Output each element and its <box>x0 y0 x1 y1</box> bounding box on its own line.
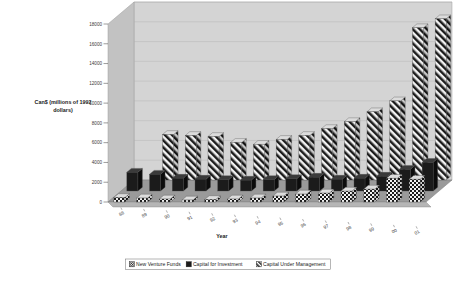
bar-face <box>231 142 242 180</box>
legend-label: Capital Under Management <box>263 261 326 267</box>
bar-face <box>137 198 148 202</box>
bar-face <box>159 199 170 202</box>
bar-face <box>208 136 219 180</box>
bar <box>322 125 338 180</box>
bar <box>195 175 211 191</box>
bar-side <box>310 132 315 180</box>
bar <box>344 118 360 180</box>
x-axis-title: Year <box>216 233 228 239</box>
bar <box>172 174 188 191</box>
bar-face <box>344 122 355 180</box>
bar-face <box>309 177 320 191</box>
legend-label: New Venture Funds <box>136 261 181 267</box>
bar-side <box>355 118 360 180</box>
bar-side <box>420 175 425 202</box>
bar <box>253 141 268 180</box>
bar-face <box>322 129 333 180</box>
bar <box>309 173 325 191</box>
bar-face <box>253 144 264 180</box>
bar-face <box>390 101 401 180</box>
chart-container: 0200040006000800010000120001400016000180… <box>0 0 456 288</box>
bar <box>127 168 143 191</box>
bar <box>386 174 402 202</box>
bar-face <box>182 200 193 202</box>
bar-face <box>195 179 206 191</box>
bar-side <box>333 125 338 180</box>
legend-swatch <box>256 262 261 267</box>
bar-side <box>174 131 179 180</box>
bar <box>208 133 224 180</box>
bar <box>240 176 256 191</box>
bar-face <box>409 179 420 202</box>
bar-face <box>386 178 397 202</box>
chart-legend: New Venture FundsCapital for InvestmentC… <box>125 259 330 270</box>
bar <box>286 175 302 191</box>
bar-face <box>276 139 287 180</box>
bar-face <box>127 172 138 191</box>
bar-face <box>263 180 274 191</box>
y-axis-title-line2: dollars) <box>53 107 73 113</box>
bar-face <box>299 136 310 181</box>
bar <box>341 187 357 202</box>
bar <box>367 108 383 180</box>
bar-face <box>435 19 446 180</box>
bar <box>263 176 279 191</box>
y-tick-label: 2000 <box>92 180 103 185</box>
y-tick-label: 8000 <box>92 121 103 126</box>
y-tick-label: 0 <box>99 200 102 205</box>
bar-side <box>423 24 428 180</box>
bar-side <box>196 132 201 180</box>
bar-side <box>433 159 438 191</box>
bar-face <box>150 174 161 191</box>
bar-face <box>318 193 329 202</box>
legend-swatch <box>129 262 134 267</box>
y-tick-label: 16000 <box>89 42 102 47</box>
bar-side <box>242 139 247 180</box>
floor-front-edge <box>108 202 431 207</box>
bar-side <box>287 136 292 180</box>
y-tick-label: 4000 <box>92 160 103 165</box>
bar <box>412 24 428 180</box>
bar-face <box>286 179 297 191</box>
bar <box>150 170 166 191</box>
bar-side <box>264 141 269 180</box>
bar-face <box>250 198 261 202</box>
bar <box>409 175 425 202</box>
bar-face <box>114 198 125 202</box>
y-tick-label: 12000 <box>89 81 102 86</box>
bar-side <box>378 108 383 180</box>
bar <box>318 189 334 202</box>
bar <box>185 132 201 180</box>
legend-swatch <box>186 262 191 267</box>
bar-face <box>185 136 196 181</box>
bar <box>364 185 380 202</box>
bar-face <box>172 178 183 191</box>
bar-face <box>240 180 251 191</box>
bar-face <box>364 189 375 202</box>
bar <box>276 136 292 180</box>
bar <box>435 15 451 180</box>
bar <box>296 190 312 202</box>
y-tick-label: 14000 <box>89 61 102 66</box>
y-axis-title-line1: Can$ (millions of 1992 <box>35 99 92 105</box>
bar-face <box>273 196 284 202</box>
bar-side <box>446 15 451 180</box>
bar <box>218 176 234 191</box>
bar-face <box>341 191 352 202</box>
y-tick-label: 18000 <box>89 22 102 27</box>
bar-side <box>219 133 224 180</box>
bar-face <box>412 28 423 180</box>
bar-face <box>367 112 378 180</box>
bar <box>299 132 315 180</box>
bar-face <box>205 200 216 202</box>
y-tick-label: 6000 <box>92 140 103 145</box>
bar-chart-3d: 0200040006000800010000120001400016000180… <box>0 0 456 288</box>
bar-face <box>218 180 229 191</box>
bar-face <box>296 194 307 202</box>
legend-label: Capital for Investment <box>193 261 243 267</box>
bar <box>231 139 247 180</box>
bar-face <box>227 199 238 202</box>
bar-side <box>397 174 402 202</box>
